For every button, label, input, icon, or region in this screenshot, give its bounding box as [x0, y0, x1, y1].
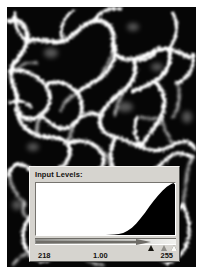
gamma-value[interactable]: 1.00 [93, 251, 108, 260]
levels-gradient-bar[interactable] [35, 238, 176, 245]
white-point-value[interactable]: 255 [160, 251, 173, 260]
histogram-panel [35, 182, 176, 236]
histogram-chart [36, 183, 175, 235]
black-point-value[interactable]: 218 [38, 251, 51, 260]
levels-values-row: 218 1.00 255 [35, 251, 176, 262]
input-levels-dialog[interactable]: Input Levels: 218 1.00 255 [29, 166, 180, 262]
input-levels-label: Input Levels: [35, 170, 83, 179]
